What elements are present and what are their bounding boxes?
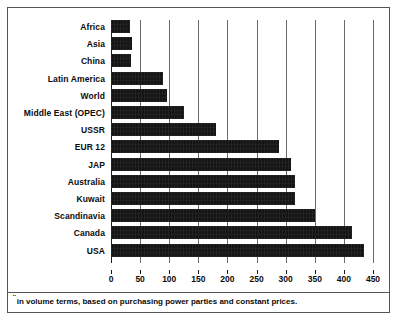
bar-chart-plot-area: AfricaAsiaChinaLatin AmericaWorldMiddle … [8, 8, 389, 270]
footnote: ¨in volume terms, based on purchasing po… [13, 297, 385, 307]
category-label: Australia [0, 178, 105, 187]
bar [111, 175, 295, 188]
bar [111, 123, 216, 136]
bar [111, 209, 315, 222]
bar [111, 140, 279, 153]
bar [111, 89, 167, 102]
category-label: Africa [0, 23, 105, 32]
bar [111, 72, 163, 85]
bar [111, 20, 130, 33]
category-label: JAP [0, 161, 105, 170]
gridline [373, 20, 374, 263]
category-label: China [0, 57, 105, 66]
bar [111, 244, 364, 257]
bar [111, 54, 131, 67]
bar [111, 226, 352, 239]
footnote-divider [8, 292, 389, 293]
category-label: Middle East (OPEC) [0, 109, 105, 118]
bar [111, 158, 291, 171]
category-label: Kuwait [0, 195, 105, 204]
category-label: Asia [0, 40, 105, 49]
chart-frame: AfricaAsiaChinaLatin AmericaWorldMiddle … [7, 7, 390, 313]
category-label: USA [0, 247, 105, 256]
footnote-text: in volume terms, based on purchasing pow… [17, 297, 298, 306]
x-axis: 050100150200250300350400450 [8, 270, 389, 292]
x-tick-label: 450 [353, 275, 393, 284]
category-label: EUR 12 [0, 143, 105, 152]
category-label: World [0, 92, 105, 101]
category-label: Scandinavia [0, 212, 105, 221]
bar [111, 37, 132, 50]
category-label: Canada [0, 229, 105, 238]
category-label: Latin America [0, 75, 105, 84]
category-label: USSR [0, 126, 105, 135]
bar [111, 192, 295, 205]
bar [111, 106, 184, 119]
